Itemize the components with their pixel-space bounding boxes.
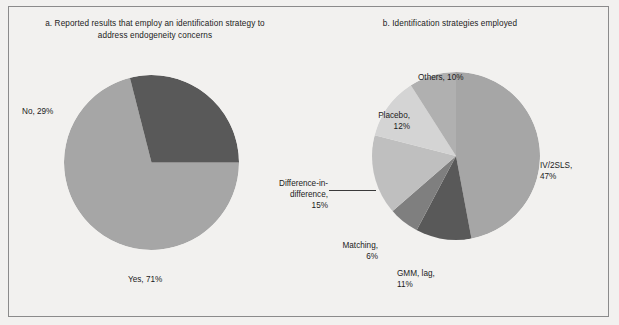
pie-chart-b xyxy=(372,72,540,240)
panel-b-title: b. Identification strategies employed xyxy=(325,18,575,30)
pie-a-label-no: No, 29% xyxy=(22,106,53,117)
pie-b-slice-iv2sls xyxy=(456,72,540,239)
pie-b-label-placebo: Placebo, 12% xyxy=(362,110,410,132)
pie-b-leader-did xyxy=(329,190,376,191)
panel-b: b. Identification strategies employed Ot… xyxy=(300,0,601,311)
figure-canvas: a. Reported results that employ an ident… xyxy=(0,0,619,325)
pie-a-label-yes: Yes, 71% xyxy=(128,274,162,285)
pie-b-label-others: Others, 10% xyxy=(418,72,464,83)
pie-b-label-matching: Matching, 6% xyxy=(330,240,378,262)
pie-b-label-gmm-lag: GMM, lag, 11% xyxy=(397,268,435,290)
panel-a-title: a. Reported results that employ an ident… xyxy=(30,18,280,42)
pie-chart-a xyxy=(64,75,239,250)
panel-a: a. Reported results that employ an ident… xyxy=(0,0,300,311)
pie-b-label-did: Difference-in-difference, 15% xyxy=(268,178,328,211)
pie-b-label-iv2sls: IV/2SLS, 47% xyxy=(540,160,572,182)
